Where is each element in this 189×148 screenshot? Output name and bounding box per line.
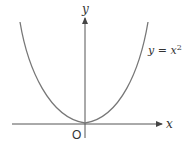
x-axis-label: x [166,117,173,131]
parabola-curve [20,22,148,123]
parabola-diagram: y x O y = x2 [0,0,189,148]
equation-base: y = x [147,44,177,57]
y-axis-label: y [81,2,89,16]
curve-equation-label: y = x2 [147,43,182,57]
origin-label: O [72,128,81,142]
equation-exponent: 2 [177,43,182,52]
